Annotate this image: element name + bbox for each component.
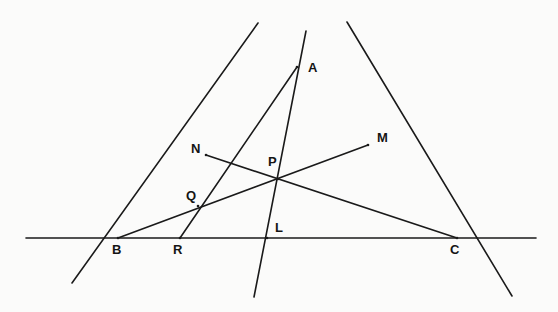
point-label-n: N [191, 142, 201, 155]
point-label-q: Q [186, 189, 196, 202]
segment-N-to-C [206, 155, 457, 238]
point-label-b: B [112, 243, 122, 256]
geometry-figure: AMNPQLBRC [0, 0, 558, 312]
point-label-m: M [377, 131, 388, 144]
vertex-dot-l [266, 237, 269, 240]
vertex-dot-m [367, 144, 370, 147]
line-AL-extended [254, 31, 306, 297]
point-label-p: P [268, 155, 277, 168]
vertex-dots-group [117, 66, 459, 240]
vertex-dot-p [277, 178, 280, 181]
vertex-dot-r [179, 237, 182, 240]
point-label-r: R [173, 243, 183, 256]
point-label-c: C [450, 243, 460, 256]
line-AB-extended [72, 23, 258, 283]
diagram-canvas [0, 0, 558, 312]
vertex-dot-b [117, 237, 120, 240]
vertex-dot-a [296, 66, 299, 69]
vertex-dot-q [197, 205, 200, 208]
segment-B-to-M [118, 145, 368, 238]
point-label-a: A [308, 61, 318, 74]
vertex-dot-n [205, 154, 208, 157]
line-AC-extended [347, 22, 512, 296]
vertex-dot-c [456, 237, 459, 240]
point-label-l: L [275, 221, 283, 234]
